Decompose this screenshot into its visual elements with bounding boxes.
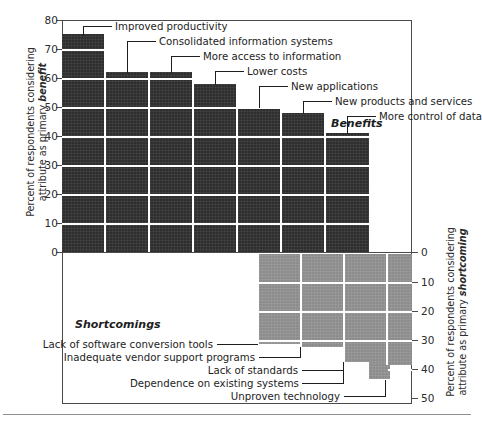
zero-baseline [62, 252, 412, 253]
y-axis-title-right-line2: attribute as primary shortcoming [457, 228, 468, 395]
gridline-s30 [259, 340, 412, 342]
axis-label-right-0: 0 [421, 247, 447, 257]
leader-shortcoming-3-h [302, 370, 344, 371]
tick-right-50 [412, 398, 418, 399]
bar-benefit-2 [106, 72, 149, 253]
bar-shortcoming-1b [259, 254, 301, 343]
leader-benefit-4-v [215, 71, 216, 85]
callout-benefit-7: More control of data [379, 111, 482, 122]
callout-benefit-3: More access to information [203, 51, 341, 62]
tick-right-40 [412, 369, 418, 370]
region-label-benefits: Benefits [331, 117, 383, 130]
leader-benefit-5-v [259, 86, 260, 108]
y-axis-title-right: Percent of respondents considering attri… [445, 212, 469, 412]
bar-sep-b4 [236, 84, 238, 253]
y-axis-title-right-line1: Percent of respondents considering [445, 227, 456, 397]
leader-benefit-2-h [127, 41, 156, 42]
leader-shortcoming-4-h [302, 383, 344, 384]
bar-sep-b5 [280, 107, 282, 253]
leader-benefit-6-v [303, 101, 304, 114]
callout-benefit-6: New products and services [335, 96, 472, 107]
bar-benefit-7 [326, 133, 369, 253]
axis-label-right-20: 20 [421, 306, 447, 316]
bar-shortcoming-3b [345, 254, 387, 362]
bar-sep-b1 [104, 34, 106, 253]
bar-benefit-3 [150, 72, 193, 253]
leader-benefit-1-h [83, 26, 112, 27]
y-axis-title-left-line2: attribute as primary benefit [37, 63, 48, 201]
bar-sep-b6 [324, 113, 326, 253]
callout-shortcoming-2: Inadequate vendor support programs [40, 352, 255, 363]
bar-sep-b3 [192, 72, 194, 253]
bar-sep-b2 [148, 72, 150, 253]
leader-shortcoming-2-v [300, 347, 301, 357]
leader-shortcoming-5-h [344, 396, 386, 397]
callout-shortcoming-3: Lack of standards [150, 365, 298, 376]
axis-label-right-40: 40 [421, 364, 447, 374]
gridline-20 [62, 194, 369, 196]
y-axis-title-left: Percent of respondents considering attri… [25, 32, 49, 232]
bar-shortcoming-2b [302, 254, 344, 347]
callout-shortcoming-4: Dependence on existing systems [130, 378, 298, 389]
gridline-30 [62, 165, 369, 167]
leader-shortcoming-5-v [385, 380, 386, 396]
gridline-10 [62, 223, 369, 225]
leader-shortcoming-4-v [343, 365, 344, 383]
bar-sep-s3 [386, 254, 388, 365]
gridline-60 [62, 78, 193, 80]
leader-shortcoming-1-h [217, 344, 258, 345]
leader-benefit-3-h [171, 56, 200, 57]
tick-right-30 [412, 340, 418, 341]
callout-benefit-4: Lower costs [247, 66, 307, 77]
bar-benefit-5 [238, 107, 281, 253]
region-label-shortcomings: Shortcomings [75, 318, 161, 331]
bar-shortcoming-4b [388, 254, 412, 365]
bar-benefit-1 [62, 34, 105, 253]
gridline-s40 [388, 369, 412, 371]
bar-benefit-6 [282, 113, 325, 253]
tick-right-10 [412, 282, 418, 283]
leader-benefit-1-v [83, 26, 84, 36]
leader-benefit-7-v [347, 116, 348, 134]
bar-sep-s2 [343, 254, 345, 361]
callout-benefit-5: New applications [291, 81, 378, 92]
gridline-s10 [259, 282, 412, 284]
tick-right-0 [412, 252, 418, 253]
axis-label-left-80: 80 [18, 15, 58, 25]
leader-benefit-5-h [259, 86, 288, 87]
axis-label-right-50: 50 [421, 393, 447, 403]
callout-benefit-1: Improved productivity [115, 21, 228, 32]
leader-shortcoming-2-h [259, 357, 301, 358]
leader-shortcoming-1-v [257, 344, 258, 345]
bar-sep-s1 [300, 254, 302, 346]
axis-label-right-30: 30 [421, 335, 447, 345]
leader-benefit-6-h [303, 101, 332, 102]
leader-benefit-7-h [347, 116, 376, 117]
leader-benefit-2-v [127, 41, 128, 73]
callout-shortcoming-5: Unproven technology [180, 391, 340, 402]
bottom-rule [3, 414, 471, 415]
leader-benefit-3-v [171, 56, 172, 73]
callout-benefit-2: Consolidated information systems [159, 36, 333, 47]
gridline-s20 [259, 311, 412, 313]
callout-shortcoming-1: Lack of software conversion tools [40, 339, 213, 350]
axis-label-right-10: 10 [421, 277, 447, 287]
leader-benefit-4-h [215, 71, 244, 72]
axis-label-left-0: 0 [18, 247, 58, 257]
y-axis-title-left-line1: Percent of respondents considering [25, 47, 36, 217]
gridline-50 [62, 107, 281, 109]
tick-right-20 [412, 311, 418, 312]
bar-benefit-4 [194, 84, 237, 253]
gridline-40 [62, 136, 369, 138]
gridline-70 [62, 49, 105, 51]
